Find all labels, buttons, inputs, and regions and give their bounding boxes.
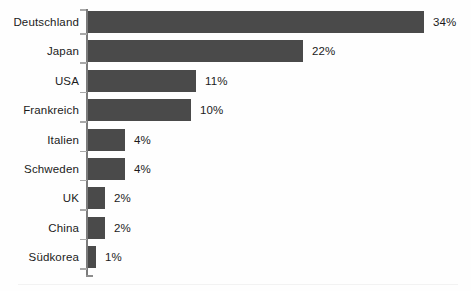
axis-tick [80, 62, 87, 64]
category-label: Italien [47, 129, 79, 151]
bar-value-label: 11% [205, 70, 228, 92]
bar-row: Deutschland34% [0, 11, 471, 40]
bar-rows: Deutschland34%Japan22%USA11%Frankreich10… [0, 11, 471, 276]
bar-value-label: 4% [134, 129, 151, 151]
bar-value-label: 34% [433, 11, 456, 33]
category-label: Japan [47, 40, 79, 62]
bar [88, 11, 424, 33]
bar-value-label: 22% [312, 40, 335, 62]
bar [88, 187, 105, 209]
category-label: Schweden [24, 158, 79, 180]
bar-value-label: 2% [114, 187, 131, 209]
bar [88, 129, 125, 151]
bar-row: USA11% [0, 70, 471, 99]
bar [88, 99, 191, 121]
bar [88, 217, 105, 239]
bar-row: Frankreich10% [0, 99, 471, 128]
bar-row: Südkorea1% [0, 246, 471, 275]
category-label: USA [55, 70, 79, 92]
axis-tick [80, 121, 87, 123]
bar-row: China2% [0, 217, 471, 246]
axis-tick [80, 180, 87, 182]
bar-value-label: 10% [200, 99, 223, 121]
bar-value-label: 2% [114, 217, 131, 239]
bar-row: Japan22% [0, 40, 471, 69]
axis-tick [80, 151, 87, 153]
bar-row: UK2% [0, 187, 471, 216]
axis-tick [80, 268, 87, 270]
axis-tick [80, 209, 87, 211]
bar [88, 158, 125, 180]
bar-row: Schweden4% [0, 158, 471, 187]
category-label: UK [63, 187, 79, 209]
category-label: Deutschland [13, 11, 79, 33]
axis-tick [80, 239, 87, 241]
bar-value-label: 1% [105, 246, 122, 268]
axis-tick [80, 92, 87, 94]
category-label: Südkorea [29, 246, 79, 268]
bar [88, 70, 196, 92]
scan-artifact-line [18, 284, 458, 285]
bar [88, 40, 303, 62]
plot-area: Deutschland34%Japan22%USA11%Frankreich10… [0, 0, 471, 291]
axis-tick [80, 33, 87, 35]
bar-chart: Deutschland34%Japan22%USA11%Frankreich10… [0, 0, 471, 291]
bar [88, 246, 96, 268]
bar-row: Italien4% [0, 129, 471, 158]
category-label: Frankreich [23, 99, 79, 121]
category-label: China [48, 217, 79, 239]
bar-value-label: 4% [134, 158, 151, 180]
